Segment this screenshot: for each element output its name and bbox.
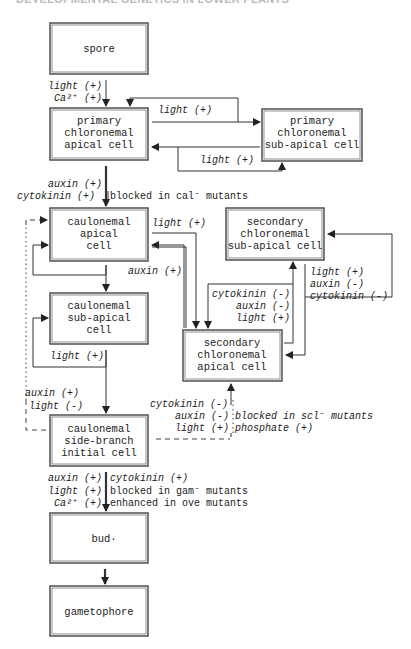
node-primary-chloronemal-sub-apical-cell: primary chloronemal sub-apical cell [262, 109, 362, 161]
node-caulonemal-apical-cell: caulonemal apical cell [50, 208, 148, 261]
svg-text:blocked in scl⁻ mutants: blocked in scl⁻ mutants [235, 411, 373, 422]
svg-text:cytokinin (-): cytokinin (-) [150, 399, 228, 410]
node-label: secondary [204, 337, 261, 349]
svg-text:bud·: bud· [91, 533, 116, 545]
svg-text:blocked in gam⁻ mutants: blocked in gam⁻ mutants [110, 486, 248, 497]
node-label: sub-apical cell [228, 240, 323, 252]
node-label: caulonemal [67, 300, 130, 312]
svg-text:light (+): light (+) [152, 218, 206, 229]
svg-text:auxin (-): auxin (-) [236, 301, 290, 312]
svg-text:light (+): light (+) [158, 105, 212, 116]
svg-text:auxin (+): auxin (+) [48, 179, 102, 190]
node-gametophore: gametophore [50, 586, 148, 636]
svg-text:blocked in cal⁻ mutants: blocked in cal⁻ mutants [110, 191, 248, 202]
svg-text:sub-apical cell: sub-apical cell [228, 240, 323, 252]
node-label: primary [290, 115, 334, 127]
svg-text:caulonemal: caulonemal [67, 300, 130, 312]
node-label: chloronemal [64, 127, 133, 139]
node-label: secondary [247, 216, 304, 228]
svg-text:Ca²⁺ (+): Ca²⁺ (+) [54, 498, 102, 509]
svg-text:enhanced in ove mutants: enhanced in ove mutants [110, 498, 248, 509]
node-primary-chloronemal-apical-cell: primary chloronemal apical cell [50, 108, 148, 160]
svg-text:light (+): light (+) [200, 155, 254, 166]
svg-text:primary: primary [290, 115, 334, 127]
svg-text:cytokinin (-): cytokinin (-) [310, 291, 388, 302]
svg-text:phosphate (+): phosphate (+) [234, 423, 313, 434]
svg-text:spore: spore [83, 43, 115, 55]
svg-text:sub-apical: sub-apical [67, 312, 130, 324]
node-label: apical cell [64, 139, 133, 151]
regulation-diagram: spore primary chloronemal apical cell pr… [0, 0, 411, 649]
node-label: spore [83, 43, 115, 55]
node-label: apical cell [197, 361, 266, 373]
edge-spore-to-primary: light (+) Ca²⁺ (+) [48, 80, 106, 106]
node-caulonemal-sub-apical-cell: caulonemal sub-apical cell [50, 293, 148, 344]
edge-primary-to-caulonemal: auxin (+) cytokinin (+) blocked in cal⁻ … [17, 166, 248, 206]
node-label: cell [86, 240, 111, 252]
svg-text:cell: cell [86, 240, 111, 252]
svg-text:cytokinin (+): cytokinin (+) [110, 473, 188, 484]
svg-text:light (+): light (+) [50, 351, 104, 362]
node-label: side-branch [64, 435, 133, 447]
svg-text:primary: primary [77, 115, 121, 127]
node-label: apical [80, 228, 118, 240]
svg-text:caulonemal: caulonemal [67, 216, 130, 228]
node-label: initial cell [61, 447, 137, 459]
svg-text:chloronemal: chloronemal [240, 228, 309, 240]
svg-text:auxin (-): auxin (-) [175, 411, 229, 422]
svg-text:apical cell: apical cell [64, 139, 133, 151]
svg-text:chloronemal: chloronemal [197, 349, 266, 361]
node-caulonemal-side-branch-initial-cell: caulonemal side-branch initial cell [50, 415, 148, 466]
svg-text:secondary: secondary [204, 337, 261, 349]
edge-primary-to-subapical: light (+) [130, 98, 260, 122]
edge-side-branch-to-secondary: cytokinin (-) auxin (-) light (+) blocke… [150, 384, 373, 439]
node-label: primary [77, 115, 121, 127]
svg-text:auxin (+): auxin (+) [25, 388, 79, 399]
node-label: chloronemal [277, 127, 346, 139]
svg-text:light (+): light (+) [48, 81, 102, 92]
node-secondary-chloronemal-apical-cell: secondary chloronemal apical cell [183, 330, 282, 381]
node-label: sub-apical [67, 312, 130, 324]
svg-text:side-branch: side-branch [64, 435, 133, 447]
node-label: sub-apical cell [265, 139, 360, 151]
svg-text:apical cell: apical cell [197, 361, 266, 373]
node-label: gametophore [64, 606, 133, 618]
svg-text:cytokinin (+): cytokinin (+) [17, 191, 95, 202]
svg-text:Ca²⁺ (+): Ca²⁺ (+) [54, 93, 102, 104]
node-label: caulonemal [67, 423, 130, 435]
edge-side-branch-to-bud: auxin (+) light (+) Ca²⁺ (+) cytokinin (… [48, 472, 248, 511]
node-bud: bud· [50, 513, 148, 563]
svg-text:light (-): light (-) [29, 401, 83, 412]
svg-text:light (+): light (+) [175, 423, 229, 434]
svg-text:sub-apical cell: sub-apical cell [265, 139, 360, 151]
svg-text:secondary: secondary [247, 216, 304, 228]
svg-text:cell: cell [86, 324, 111, 336]
svg-text:initial cell: initial cell [61, 447, 137, 459]
svg-text:light (+): light (+) [236, 313, 290, 324]
node-label: chloronemal [197, 349, 266, 361]
svg-text:chloronemal: chloronemal [277, 127, 346, 139]
node-label: bud· [91, 533, 116, 545]
node-secondary-chloronemal-sub-apical-cell: secondary chloronemal sub-apical cell [226, 208, 324, 260]
svg-text:caulonemal: caulonemal [67, 423, 130, 435]
node-label: chloronemal [240, 228, 309, 240]
svg-text:light (+): light (+) [310, 267, 364, 278]
svg-text:cytokinin (-): cytokinin (-) [212, 289, 290, 300]
svg-text:chloronemal: chloronemal [64, 127, 133, 139]
svg-text:auxin (+): auxin (+) [48, 473, 102, 484]
svg-text:light (+): light (+) [48, 486, 102, 497]
svg-text:auxin (+): auxin (+) [128, 266, 182, 277]
svg-text:auxin (-): auxin (-) [310, 279, 364, 290]
svg-text:apical: apical [80, 228, 118, 240]
node-label: cell [86, 324, 111, 336]
node-spore: spore [50, 23, 148, 74]
node-label: caulonemal [67, 216, 130, 228]
svg-text:gametophore: gametophore [64, 606, 133, 618]
